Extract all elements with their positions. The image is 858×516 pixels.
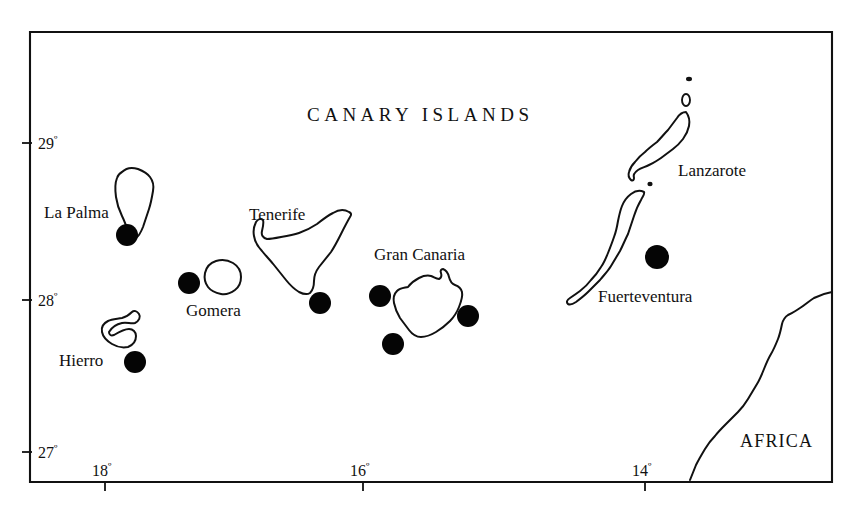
longitude-tick-value: 18 <box>92 462 108 479</box>
sample-site-dot <box>178 272 200 294</box>
islet-la-graciosa <box>682 94 690 106</box>
sample-site-dot <box>382 333 404 355</box>
canary-islands-map: CANARY ISLANDS La Palma Tenerife Gomera … <box>0 0 858 516</box>
sample-site-dot <box>309 292 331 314</box>
continent-label-africa: AFRICA <box>740 432 813 450</box>
degree-symbol: º <box>54 442 57 454</box>
longitude-tick-label-14: 14º <box>632 461 651 479</box>
island-label-gran-canaria: Gran Canaria <box>374 246 465 263</box>
latitude-tick-value: 29 <box>38 135 54 152</box>
island-label-hierro: Hierro <box>59 352 103 369</box>
sample-site-dot <box>457 305 479 327</box>
island-label-la-palma: La Palma <box>44 204 109 221</box>
sample-site-dot <box>645 245 669 269</box>
degree-symbol: º <box>366 460 369 472</box>
map-title: CANARY ISLANDS <box>307 105 533 124</box>
degree-symbol: º <box>54 290 57 302</box>
sample-site-dot <box>124 351 146 373</box>
island-label-fuerteventura: Fuerteventura <box>598 288 692 305</box>
latitude-tick-label-29: 29º <box>38 134 57 152</box>
latitude-tick-value: 27 <box>38 444 54 461</box>
longitude-tick-label-18: 18º <box>92 461 111 479</box>
sample-site-dot <box>116 224 138 246</box>
latitude-tick-value: 28 <box>38 292 54 309</box>
island-label-gomera: Gomera <box>186 302 241 319</box>
degree-symbol: º <box>54 133 57 145</box>
island-outline-gomera <box>205 260 241 294</box>
islet-alegranza <box>686 77 692 81</box>
degree-symbol: º <box>648 460 651 472</box>
island-label-lanzarote: Lanzarote <box>678 162 746 179</box>
island-label-tenerife: Tenerife <box>249 206 305 223</box>
island-outline-hierro <box>102 311 140 347</box>
islet-isla-de-lobos <box>647 182 652 186</box>
degree-symbol: º <box>108 460 111 472</box>
latitude-tick-label-28: 28º <box>38 291 57 309</box>
sample-site-dot <box>369 285 391 307</box>
latitude-tick-label-27: 27º <box>38 443 57 461</box>
africa-coastline <box>690 292 832 480</box>
longitude-tick-value: 16 <box>350 462 366 479</box>
island-outline-gran-canaria <box>394 269 463 337</box>
longitude-tick-value: 14 <box>632 462 648 479</box>
longitude-tick-label-16: 16º <box>350 461 369 479</box>
